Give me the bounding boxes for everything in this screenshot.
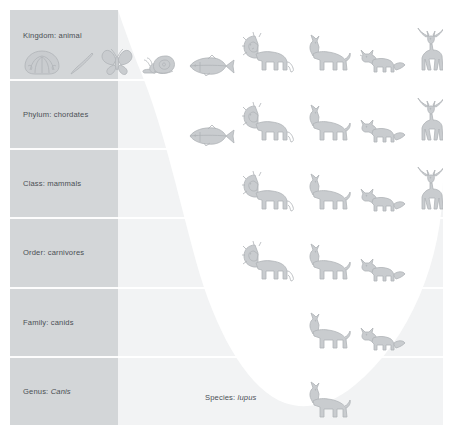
rank-label-order: Order: carnivores	[23, 248, 123, 257]
animal-wolf	[306, 173, 352, 215]
animal-snail	[141, 52, 179, 76]
species-caption: Species: lupus	[205, 393, 257, 402]
animal-deer	[414, 98, 443, 146]
rank-label-genus: Genus: Canis	[23, 387, 123, 396]
rank-label-kingdom: Kingdom: animal	[23, 31, 123, 40]
animal-wolf	[306, 34, 352, 76]
animal-deer	[414, 167, 443, 215]
animal-fox	[360, 259, 406, 285]
animal-lion	[242, 241, 296, 285]
rank-label-phylum: Phylum: chordates	[23, 110, 123, 119]
animal-lion	[242, 102, 296, 146]
animal-wolf	[306, 312, 352, 354]
animal-wolf	[306, 381, 352, 423]
animal-butterfly	[100, 46, 134, 76]
animal-wolf	[306, 104, 352, 146]
animal-fox	[360, 50, 406, 76]
animal-fish	[186, 54, 236, 76]
animal-coral	[22, 48, 62, 76]
animal-fox	[360, 328, 406, 354]
taxonomy-funnel-figure: Kingdom: animal Phylum: chordates Class:…	[10, 10, 443, 425]
rank-label-family: Family: canids	[23, 318, 123, 327]
animal-deer	[414, 28, 443, 76]
animal-fish	[186, 124, 236, 146]
animal-lion	[242, 32, 296, 76]
animal-lion	[242, 171, 296, 215]
animal-fox	[360, 120, 406, 146]
rank-label-class: Class: mammals	[23, 179, 123, 188]
animal-worm	[68, 52, 96, 76]
animal-fox	[360, 189, 406, 215]
animal-wolf	[306, 243, 352, 285]
